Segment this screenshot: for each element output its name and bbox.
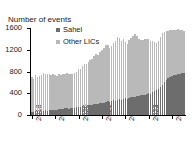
chart-legend: Sahel Other LICs xyxy=(56,25,99,49)
x-tick-mark xyxy=(32,116,33,119)
bar-segment-sahel xyxy=(183,73,185,115)
legend-label-other-lics: Other LICs xyxy=(63,38,99,46)
legend-item-other-lics: Other LICs xyxy=(56,37,99,47)
chart-figure: Number of events 040080012001600 2018201… xyxy=(0,0,192,146)
x-tick-mark xyxy=(55,116,56,119)
legend-swatch-other-lics xyxy=(56,40,60,44)
bar xyxy=(183,31,185,115)
x-tick-mark xyxy=(172,116,173,119)
x-tick-mark xyxy=(79,116,80,119)
bar-segment-other-lics xyxy=(183,31,185,73)
x-tick-mark xyxy=(102,116,103,119)
x-axis-line xyxy=(30,115,186,116)
legend-label-sahel: Sahel xyxy=(63,26,82,34)
legend-item-sahel: Sahel xyxy=(56,25,99,35)
x-tick-mark xyxy=(149,116,150,119)
legend-swatch-sahel xyxy=(56,28,60,32)
plot-area xyxy=(31,28,185,115)
x-tick-mark xyxy=(125,116,126,119)
